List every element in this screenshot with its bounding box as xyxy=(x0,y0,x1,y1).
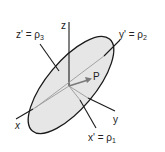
label-x-axis: x xyxy=(14,120,21,131)
label-point-p: P xyxy=(93,71,100,82)
label-z-prime-sub: 3 xyxy=(40,34,44,41)
label-z-axis: z xyxy=(61,20,66,31)
label-y-prime: y' = ρ2 xyxy=(119,29,147,41)
label-y-axis: y xyxy=(113,114,118,125)
label-y-prime-main: y' = ρ xyxy=(119,29,143,40)
label-z-prime-main: z' = ρ xyxy=(16,29,40,40)
label-z-prime: z' = ρ3 xyxy=(16,29,44,41)
label-x-prime-main: x' = ρ xyxy=(88,132,112,143)
label-x-prime-sub: 1 xyxy=(112,137,116,144)
label-x-prime: x' = ρ1 xyxy=(88,132,116,144)
z-prime-axis-line xyxy=(40,44,59,71)
y-axis-line xyxy=(88,98,115,111)
diagram-canvas: z z' = ρ3 y' = ρ2 P x y x' = ρ1 xyxy=(0,0,165,152)
x-prime-axis-line xyxy=(80,100,96,128)
label-y-prime-sub: 2 xyxy=(143,34,147,41)
